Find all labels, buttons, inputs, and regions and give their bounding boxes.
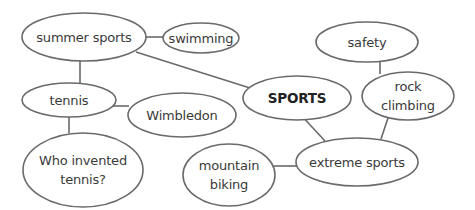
node-safety: safety (316, 22, 418, 62)
node-label: safety (348, 35, 387, 50)
node-tennis: tennis (22, 83, 116, 117)
node-mountain-biking: mountainbiking (183, 144, 275, 206)
node-sports: SPORTS (243, 76, 351, 120)
edge-summer-sports-to-sports (136, 52, 250, 88)
node-label: extreme sports (309, 155, 405, 170)
node-rock-climbing: rockclimbing (362, 72, 454, 120)
node-label: rock (395, 79, 423, 94)
node-label: biking (210, 177, 248, 192)
mind-map-diagram: SPORTSsummer sportsswimmingtennisWimbled… (0, 0, 475, 210)
node-swimming: swimming (163, 23, 239, 53)
node-extreme-sports: extreme sports (296, 138, 418, 186)
node-label: Who invented (39, 153, 127, 168)
node-wimbledon: Wimbledon (128, 93, 236, 137)
node-label: mountain (199, 158, 259, 173)
node-summer-sports: summer sports (22, 13, 146, 61)
edge-rock-climbing-to-extreme-sports (381, 118, 388, 139)
node-label: climbing (381, 98, 435, 113)
node-label: Wimbledon (146, 108, 217, 123)
node-ellipse (23, 133, 143, 207)
mind-map-nodes: SPORTSsummer sportsswimmingtennisWimbled… (22, 13, 454, 207)
node-label: swimming (169, 31, 234, 46)
node-label: tennis? (60, 172, 105, 187)
node-label: tennis (50, 93, 89, 108)
node-ellipse (183, 144, 275, 206)
node-label: summer sports (36, 30, 132, 45)
node-label: SPORTS (268, 90, 327, 106)
node-who-invented-tennis: Who inventedtennis? (23, 133, 143, 207)
